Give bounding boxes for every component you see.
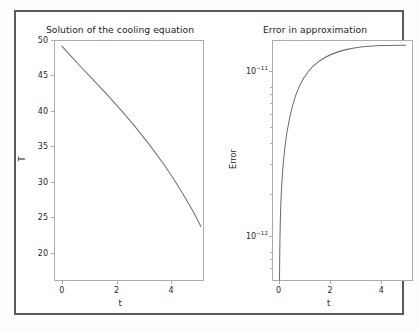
right-xtick-mark-2 bbox=[330, 281, 331, 284]
left-ytick-label-50: 50 bbox=[24, 36, 48, 45]
right-ytick-base-lower: 10 bbox=[246, 232, 256, 241]
left-xtick-label-0: 0 bbox=[59, 286, 64, 295]
figure-outer-frame: Solution of the cooling equation 50 45 4… bbox=[14, 10, 404, 315]
right-xtick-mark-4 bbox=[381, 281, 382, 284]
right-yaxis-label: Error bbox=[228, 142, 238, 176]
left-ytick-label-30: 30 bbox=[24, 177, 48, 186]
right-ytick-label-1e-11: 10−11 bbox=[230, 67, 268, 76]
right-axes-box bbox=[272, 40, 413, 281]
subplot-approximation-error: Error in approximation 10−11 10−12 Error bbox=[224, 12, 406, 313]
approximation-error-curve bbox=[280, 45, 406, 280]
left-ytick-label-35: 35 bbox=[24, 142, 48, 151]
subplot-cooling-solution: Solution of the cooling equation 50 45 4… bbox=[16, 12, 224, 313]
left-xtick-mark-2 bbox=[117, 281, 118, 284]
left-xtick-mark-0 bbox=[62, 281, 63, 284]
left-ytick-label-45: 45 bbox=[24, 71, 48, 80]
left-xtick-label-4: 4 bbox=[169, 286, 174, 295]
right-ytick-exponent-lower: −12 bbox=[256, 230, 268, 236]
left-xaxis-label: t bbox=[16, 298, 224, 308]
left-ytick-label-25: 25 bbox=[24, 213, 48, 222]
right-ytick-base-upper: 10 bbox=[246, 67, 256, 76]
left-xtick-mark-4 bbox=[171, 281, 172, 284]
left-ytick-label-40: 40 bbox=[24, 106, 48, 115]
left-curve-svg bbox=[55, 41, 203, 280]
right-xtick-label-0: 0 bbox=[276, 286, 281, 295]
left-xtick-label-2: 2 bbox=[114, 286, 119, 295]
left-yaxis-label: T bbox=[17, 152, 27, 166]
cooling-solution-curve bbox=[62, 46, 201, 227]
right-panel-title: Error in approximation bbox=[224, 24, 406, 35]
left-panel-title: Solution of the cooling equation bbox=[16, 24, 224, 35]
right-ytick-label-1e-12: 10−12 bbox=[230, 232, 268, 241]
right-curve-svg bbox=[273, 41, 412, 280]
right-xtick-label-2: 2 bbox=[327, 286, 332, 295]
left-ytick-label-20: 20 bbox=[24, 248, 48, 257]
right-xtick-mark-0 bbox=[279, 281, 280, 284]
right-xtick-label-4: 4 bbox=[379, 286, 384, 295]
figure-canvas: Solution of the cooling equation 50 45 4… bbox=[0, 0, 419, 333]
right-xaxis-label: t bbox=[258, 298, 399, 308]
right-ytick-exponent-upper: −11 bbox=[256, 65, 268, 71]
left-axes-box bbox=[54, 40, 204, 281]
